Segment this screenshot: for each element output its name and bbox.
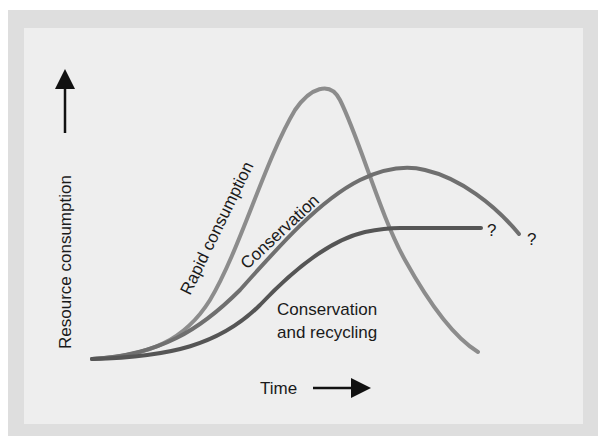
y-axis-label: Resource consumption [56,175,75,349]
conservation-recycling-label-line2: and recycling [277,323,377,342]
x-axis-label: Time [260,379,297,398]
chart-svg: Resource consumption Time Rapid consumpt… [0,0,605,444]
question-mark-conservation: ? [527,230,536,249]
conservation-recycling-label-line1: Conservation [277,300,377,319]
question-mark-recycling: ? [487,221,496,240]
